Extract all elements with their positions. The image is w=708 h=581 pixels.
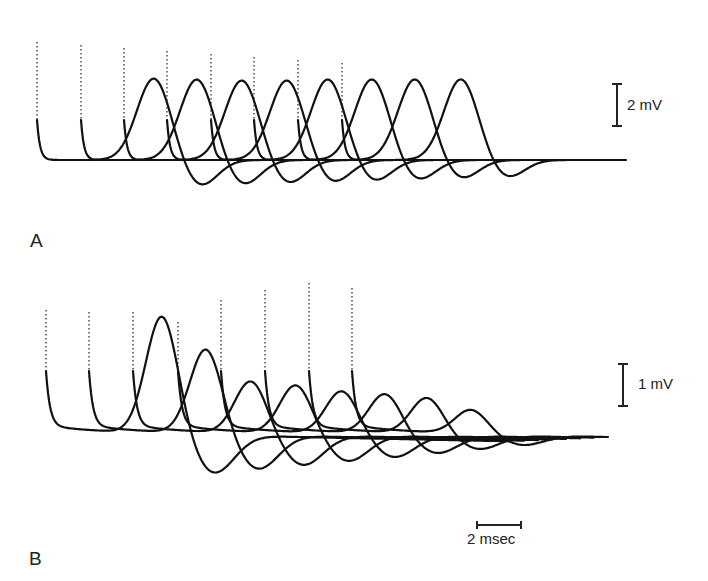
response-trace [352,371,608,445]
response-trace [133,371,538,465]
scale-bar-b [618,364,628,406]
time-scale-bar [477,521,521,529]
panel-label-a: A [30,230,43,252]
panel-b-traces [46,283,608,473]
scale-label-b: 1 mV [638,375,673,392]
panel-a-traces [37,42,626,184]
panel-label-b: B [29,548,42,570]
scale-bar-a [612,84,622,126]
figure-canvas [0,0,708,581]
time-scale-label: 2 msec [467,530,515,547]
response-trace [89,350,524,469]
response-trace [46,317,510,473]
response-trace [342,80,626,177]
scale-label-a: 2 mV [627,96,662,113]
